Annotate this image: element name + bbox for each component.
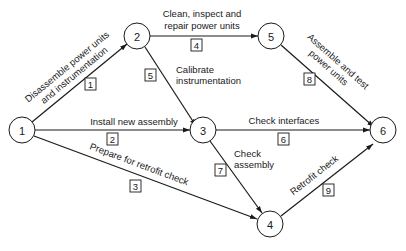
activity-box-9: 9 xyxy=(323,184,334,196)
activity-box-5: 5 xyxy=(145,69,156,81)
activity-box-4: 4 xyxy=(191,39,202,51)
svg-text:1: 1 xyxy=(19,125,25,137)
edge-3-to-6: Check interfaces 6 xyxy=(216,115,370,145)
edge-5-label-line1: Calibrate xyxy=(176,64,214,75)
svg-text:6: 6 xyxy=(380,125,386,137)
node-3: 3 xyxy=(190,117,216,143)
svg-text:1: 1 xyxy=(88,79,93,90)
svg-text:5: 5 xyxy=(148,70,153,81)
svg-text:8: 8 xyxy=(307,74,312,85)
svg-text:4: 4 xyxy=(194,40,199,51)
arrow-edge-5 xyxy=(145,47,196,126)
svg-text:3: 3 xyxy=(133,181,138,192)
node-6: 6 xyxy=(370,117,396,143)
edge-4-label-line2: repair power units xyxy=(164,20,240,31)
network-diagram: Disassemble power units and instrumentat… xyxy=(0,0,406,251)
arrow-edge-9 xyxy=(281,144,373,216)
edge-1-to-3: Install new assembly 2 xyxy=(35,116,190,145)
svg-text:3: 3 xyxy=(200,125,206,137)
svg-text:4: 4 xyxy=(267,219,273,231)
node-4: 4 xyxy=(257,211,283,237)
edge-4-to-6: Retrofit check 9 xyxy=(281,144,373,216)
edge-1-to-2: Disassemble power units and instrumentat… xyxy=(23,29,127,122)
activity-box-2: 2 xyxy=(107,133,118,145)
svg-text:5: 5 xyxy=(268,31,274,43)
edge-2-label: Install new assembly xyxy=(90,116,178,127)
node-5: 5 xyxy=(258,23,284,49)
edge-7-label-line1: Check xyxy=(234,148,261,159)
svg-text:2: 2 xyxy=(134,31,140,43)
edge-5-label-line2: instrumentation xyxy=(176,75,241,86)
activity-box-7: 7 xyxy=(215,164,226,176)
activity-box-6: 6 xyxy=(278,133,289,145)
edge-3-to-4: Check assembly 7 xyxy=(210,141,274,213)
svg-text:2: 2 xyxy=(110,134,115,145)
node-1: 1 xyxy=(9,117,35,143)
arrow-edge-3 xyxy=(34,136,257,219)
edge-2-to-3: Calibrate instrumentation 5 xyxy=(145,47,241,126)
edge-6-label: Check interfaces xyxy=(249,115,320,126)
svg-text:9: 9 xyxy=(326,185,331,196)
svg-text:6: 6 xyxy=(281,134,286,145)
edge-5-to-6: Assemble and test power units 8 xyxy=(281,31,374,127)
activity-box-8: 8 xyxy=(304,73,315,85)
edge-7-label-line2: assembly xyxy=(234,159,274,170)
node-2: 2 xyxy=(124,23,150,49)
activity-box-3: 3 xyxy=(130,180,141,192)
svg-text:7: 7 xyxy=(218,165,223,176)
edge-1-to-4: Prepare for retrofit check 3 xyxy=(34,136,257,219)
activity-box-1: 1 xyxy=(85,78,96,90)
edge-2-to-5: Clean, inspect and repair power units 4 xyxy=(150,8,258,51)
edge-4-label-line1: Clean, inspect and xyxy=(163,8,242,19)
